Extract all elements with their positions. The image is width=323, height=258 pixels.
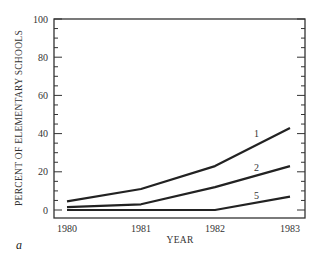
y-tick-label: 80 (38, 52, 48, 63)
y-tick-label: 100 (33, 14, 48, 25)
y-tick-label: 40 (38, 128, 48, 139)
series-label-5: 5 (254, 190, 259, 201)
x-axis-title: YEAR (166, 235, 193, 245)
y-tick-label: 60 (38, 90, 48, 101)
series-label-2: 2 (254, 162, 259, 173)
plot-frame (54, 19, 305, 218)
x-tick-label: 1981 (131, 223, 151, 234)
line-chart: 020406080100 1980198119821983 125 YEAR P… (0, 0, 323, 258)
y-axis-title: PERCENT OF ELEMENTARY SCHOOLS (14, 30, 24, 206)
plot-border (54, 19, 305, 218)
y-tick-label: 0 (43, 205, 48, 216)
x-tick-label: 1983 (280, 223, 300, 234)
y-tick-label: 20 (38, 166, 48, 177)
x-tick-label: 1980 (57, 223, 77, 234)
x-tick-label: 1982 (205, 223, 225, 234)
x-axis-ticks: 1980198119821983 (57, 223, 300, 234)
y-axis-ticks: 020406080100 (33, 14, 305, 216)
panel-label: a (16, 238, 22, 253)
series-label-1: 1 (254, 128, 259, 139)
series-labels: 125 (254, 128, 259, 201)
